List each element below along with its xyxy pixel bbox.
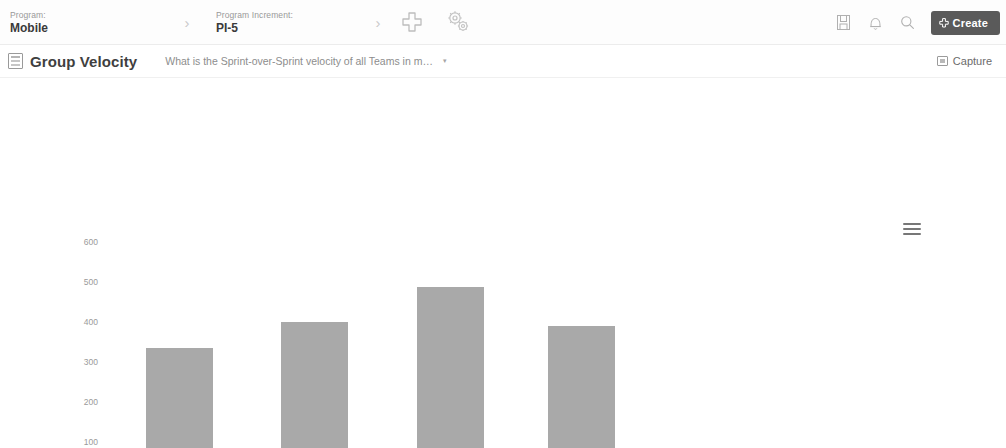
plus-icon[interactable] bbox=[399, 9, 425, 35]
chevron-right-icon-1: › bbox=[180, 15, 194, 29]
top-navigation-bar: Program: Mobile › Program Increment: PI-… bbox=[0, 0, 1006, 45]
y-axis-tick-600: 600 bbox=[60, 238, 98, 247]
page-title: Group Velocity bbox=[30, 53, 137, 70]
camera-icon bbox=[937, 56, 948, 66]
capture-button-label: Capture bbox=[953, 55, 992, 67]
report-question-text: What is the Sprint-over-Sprint velocity … bbox=[165, 55, 433, 67]
create-button[interactable]: Create bbox=[931, 11, 1000, 35]
notifications-bell-icon[interactable] bbox=[867, 14, 885, 32]
create-plus-icon bbox=[939, 18, 949, 28]
bar-sprint-23[interactable] bbox=[146, 348, 213, 448]
breadcrumb-increment-label: Program Increment: bbox=[216, 9, 349, 21]
create-button-label: Create bbox=[953, 17, 988, 29]
bar-sprint-26[interactable] bbox=[548, 326, 615, 448]
capture-button[interactable]: Capture bbox=[937, 55, 992, 67]
chart-container: 600 500 400 300 200 100 0 Sprint 23 Spri… bbox=[0, 78, 1006, 448]
chevron-down-icon[interactable]: ▾ bbox=[443, 57, 447, 65]
breadcrumb-program-value: Mobile bbox=[10, 21, 180, 36]
gears-icon[interactable] bbox=[443, 7, 473, 37]
chevron-right-icon-2: › bbox=[371, 15, 385, 29]
y-axis-tick-100: 100 bbox=[60, 438, 98, 447]
breadcrumb-program-increment[interactable]: Program Increment: PI-5 bbox=[194, 9, 349, 36]
save-icon[interactable] bbox=[835, 14, 853, 32]
search-icon[interactable] bbox=[899, 14, 917, 32]
report-icon bbox=[8, 53, 23, 69]
breadcrumb-program-label: Program: bbox=[10, 9, 180, 21]
top-bar-right-actions: Create bbox=[835, 0, 1000, 45]
y-axis-tick-400: 400 bbox=[60, 318, 98, 327]
bar-sprint-24[interactable] bbox=[281, 322, 348, 448]
y-axis-tick-200: 200 bbox=[60, 398, 98, 407]
y-axis-tick-500: 500 bbox=[60, 278, 98, 287]
bar-sprint-25[interactable] bbox=[417, 287, 484, 448]
y-axis-tick-300: 300 bbox=[60, 358, 98, 367]
breadcrumb-increment-value: PI-5 bbox=[216, 21, 349, 36]
breadcrumb-program[interactable]: Program: Mobile bbox=[0, 9, 180, 36]
bar-chart-plot: 600 500 400 300 200 100 0 Sprint 23 Spri… bbox=[0, 78, 1006, 448]
report-header-bar: Group Velocity What is the Sprint-over-S… bbox=[0, 45, 1006, 78]
